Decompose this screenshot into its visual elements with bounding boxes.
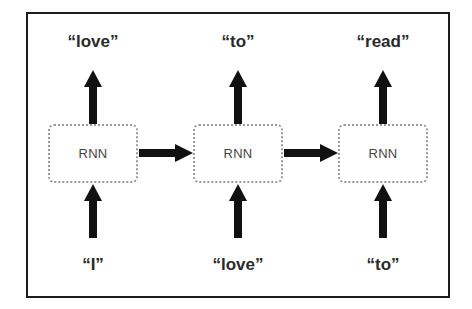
arrow-up-icon: [374, 70, 392, 124]
arrow-up-icon: [229, 70, 247, 124]
arrow-up-icon: [374, 184, 392, 238]
rnn-cell-label: RNN: [79, 146, 108, 161]
arrow-up-icon: [84, 70, 102, 124]
rnn-cell-label: RNN: [224, 146, 253, 161]
arrow-up-icon: [229, 184, 247, 238]
arrow-right-icon: [284, 144, 338, 162]
rnn-cell-label: RNN: [369, 146, 398, 161]
input-arrows: [84, 184, 392, 238]
input-word-1: “I”: [33, 255, 153, 275]
arrow-right-icon: [139, 144, 193, 162]
output-word-1: “love”: [33, 32, 153, 52]
output-word-2: “to”: [178, 32, 298, 52]
rnn-cell-2: RNN: [193, 124, 283, 183]
output-word-3: “read”: [323, 32, 443, 52]
input-word-3: “to”: [323, 255, 443, 275]
output-arrows: [84, 70, 392, 124]
arrow-up-icon: [84, 184, 102, 238]
input-word-2: “love”: [178, 255, 298, 275]
rnn-cell-1: RNN: [48, 124, 138, 183]
rnn-cell-3: RNN: [338, 124, 428, 183]
